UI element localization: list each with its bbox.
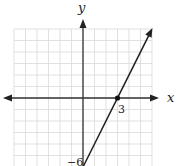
series-arrow-icon	[145, 28, 152, 38]
y-intercept-label: −6	[67, 156, 83, 166]
x-intercept-label: 3	[118, 103, 125, 116]
x-axis-label: x	[167, 90, 175, 105]
y-axis-up-arrow-icon	[80, 19, 87, 28]
x-axis-right-arrow-icon	[150, 95, 159, 102]
graph: y x 3 −6	[0, 0, 177, 166]
y-axis-label: y	[77, 0, 86, 15]
x-axis-left-arrow-icon	[3, 95, 12, 102]
intercept-point	[115, 95, 120, 100]
